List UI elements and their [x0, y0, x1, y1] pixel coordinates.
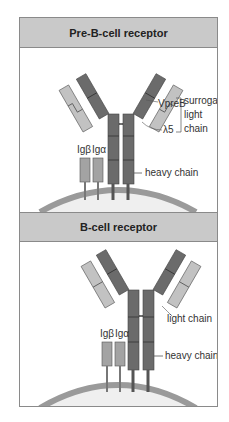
pre-b-cell-receptor-illustration: VpreB λ5 surrogate light chain Igβ Igα h… [20, 18, 217, 212]
surrogate-light-chain-label-1: surrogate [184, 95, 217, 106]
surrogate-light-chain-label-2: light [184, 109, 203, 120]
vpreb-label: VpreB [158, 98, 186, 109]
b-cell-receptor-panel: B-cell receptor [20, 212, 217, 406]
ig-beta-label: Igβ [77, 144, 91, 155]
b-cell-receptor-illustration: light chain Igβ Igα heavy chain [20, 212, 217, 406]
ig-alpha-label: Igα [92, 144, 106, 155]
ig-alpha-label: Igα [115, 328, 129, 339]
heavy-chain-arms [96, 250, 185, 295]
light-chain-label: light chain [167, 313, 212, 324]
ig-beta-label: Igβ [100, 328, 114, 339]
lambda5-label: λ5 [163, 124, 174, 135]
heavy-chain-stems [128, 290, 154, 392]
heavy-chain-label: heavy chain [165, 350, 217, 361]
heavy-chain-label: heavy chain [145, 167, 198, 178]
heavy-chain-arms [76, 74, 165, 119]
light-chains [81, 261, 201, 308]
diagram-frame: Pre-B-cell receptor [19, 17, 218, 407]
pre-b-cell-receptor-panel: Pre-B-cell receptor [20, 18, 217, 212]
surrogate-light-chain-label-3: chain [184, 123, 208, 134]
